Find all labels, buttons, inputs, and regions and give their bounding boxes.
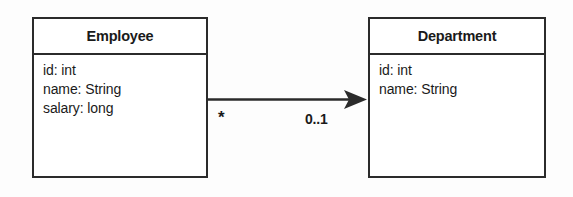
uml-attribute: name: String (379, 80, 544, 99)
uml-class-employee[interactable]: Employee id: int name: String salary: lo… (32, 17, 208, 178)
multiplicity-target: 0..1 (305, 111, 328, 127)
uml-class-employee-attributes: id: int name: String salary: long (34, 55, 206, 176)
uml-class-department-name: Department (418, 28, 497, 44)
association-arrowhead-icon (344, 90, 367, 109)
uml-attribute: id: int (379, 61, 544, 80)
uml-attribute: name: String (43, 80, 206, 99)
uml-class-department-header: Department (370, 19, 544, 55)
uml-class-employee-header: Employee (34, 19, 206, 55)
uml-attribute: id: int (43, 61, 206, 80)
uml-attribute: salary: long (43, 99, 206, 118)
uml-class-department-attributes: id: int name: String (370, 55, 544, 176)
multiplicity-source: * (218, 112, 224, 124)
uml-class-diagram: Employee id: int name: String salary: lo… (0, 0, 573, 197)
uml-class-department[interactable]: Department id: int name: String (368, 17, 546, 178)
uml-class-employee-name: Employee (87, 28, 154, 44)
